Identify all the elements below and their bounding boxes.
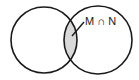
venn-diagram: M ∩ N [0,0,139,80]
intersection-label: M ∩ N [85,15,116,27]
